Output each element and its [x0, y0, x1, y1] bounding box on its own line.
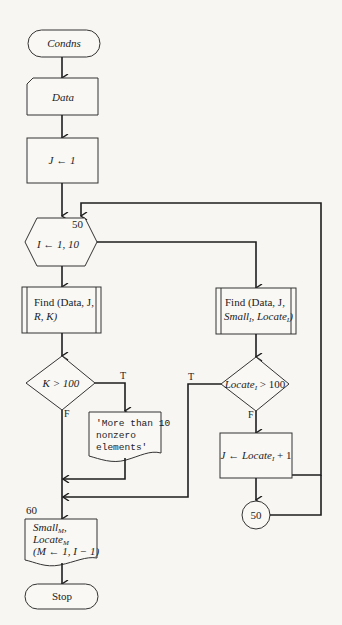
decision-left-label: K > 100	[42, 377, 80, 389]
data-input-card: Data	[27, 78, 98, 115]
final-output-line3: (M ← 1, I − 1)	[33, 545, 99, 558]
decision-left-true-label: T	[120, 370, 126, 381]
final-output-document: SmallM, LocateM (M ← 1, I − 1)	[25, 519, 99, 566]
assign-right-label: J ← LocateI + 1	[221, 449, 292, 463]
stop-label: Stop	[52, 590, 73, 602]
find-right-line1: Find (Data, J,	[225, 296, 285, 309]
assign-right-process: J ← LocateI + 1	[220, 433, 292, 478]
start-terminal: Condns	[28, 30, 100, 57]
loop-hexagon: 50 I ← 1, 10	[25, 218, 97, 266]
connector-50: 50	[242, 501, 270, 529]
decision-right-true-label: T	[188, 371, 194, 382]
decision-left-false-label: F	[64, 408, 70, 419]
loop-label: I ← 1, 10	[36, 238, 80, 250]
start-label: Condns	[47, 37, 81, 49]
loop-statement-number: 50	[72, 218, 84, 230]
find-left-line1: Find (Data, J,	[34, 296, 94, 309]
output-message-line2: nonzero	[96, 430, 136, 441]
arrow-loop-to-find-right	[97, 242, 256, 288]
decision-left-diamond: K > 100	[26, 356, 95, 410]
decision-right-diamond: LocateI > 100	[221, 357, 289, 411]
flowchart-canvas: Condns Data J ← 1 50 I ← 1, 10 Find (Dat…	[0, 0, 342, 625]
decision-right-false-label: F	[248, 409, 254, 420]
connector-to-loop-line	[270, 475, 321, 515]
data-input-label: Data	[51, 91, 75, 103]
find-left-subroutine: Find (Data, J, R, K)	[22, 287, 101, 333]
output-message-line3: elements'	[96, 442, 147, 453]
output-message-line1: 'More than 10	[96, 418, 170, 429]
find-right-subroutine: Find (Data, J, SmallI, LocateI)	[216, 288, 296, 334]
output-message-document: 'More than 10 nonzero elements'	[89, 412, 170, 461]
find-right-line2: SmallI, LocateI)	[224, 310, 293, 324]
stop-terminal: Stop	[25, 584, 98, 609]
init-label: J ← 1	[49, 154, 76, 166]
arrow-decision-left-true	[95, 383, 125, 411]
final-output-statement-number: 60	[26, 504, 38, 516]
connector-label: 50	[251, 509, 263, 521]
find-left-line2: R, K)	[33, 310, 58, 323]
init-process: J ← 1	[27, 138, 98, 183]
